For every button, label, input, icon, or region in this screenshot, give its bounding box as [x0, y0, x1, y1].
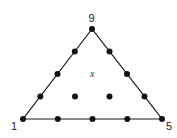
edge-dot [124, 71, 130, 77]
edge-points [37, 49, 147, 123]
vertex-label-top: 9 [89, 12, 95, 24]
edge-dot [72, 49, 78, 55]
edge-dot [142, 94, 148, 100]
edge-dot [55, 71, 61, 77]
interior-points [72, 94, 113, 100]
vertex-dot-top [89, 26, 95, 32]
vertex-label-left: 1 [11, 120, 17, 132]
edge-dot [107, 49, 113, 55]
edge-dot [124, 116, 130, 122]
vertex-label-right: 5 [166, 120, 172, 132]
interior-dot [107, 94, 113, 100]
triangle-diagram: x 9 1 5 [0, 0, 177, 138]
edge-dot [37, 94, 43, 100]
vertex-dot-right [159, 116, 165, 122]
edge-dot [55, 116, 61, 122]
edge-dot [90, 116, 96, 122]
vertex-dot-left [20, 116, 26, 122]
center-mark: x [89, 68, 95, 79]
interior-dot [72, 94, 78, 100]
